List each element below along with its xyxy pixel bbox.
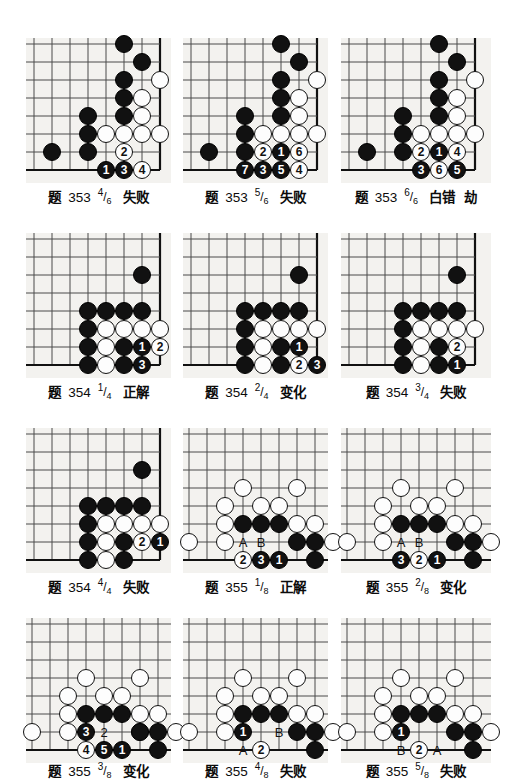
diagram-result: 失败 <box>440 385 466 400</box>
diagram-result: 变化 <box>440 580 466 595</box>
diagram-result: 失败 <box>123 580 149 595</box>
board-label-B: B <box>253 534 269 550</box>
diagram-result: 白错 <box>429 190 455 205</box>
problem-label: 题 <box>48 764 61 779</box>
board-label-B: B <box>393 742 409 758</box>
go-board: AB321 <box>341 428 491 573</box>
stone-white <box>482 723 501 742</box>
diagram-fraction: 2/4 <box>255 382 269 401</box>
problem-number: 354 <box>64 385 90 400</box>
diagram-caption: 题 3543/4失败 <box>327 381 505 402</box>
diagram-result: 失败 <box>280 764 306 779</box>
diagram-fraction: 4/6 <box>98 187 112 206</box>
problem-label: 题 <box>205 385 218 400</box>
diagram-caption: 题 3554/8失败 <box>169 760 342 780</box>
diagram-fraction: 4/4 <box>98 577 112 596</box>
diagram-caption: 题 3544/4失败 <box>12 576 185 597</box>
go-board: 214365 <box>341 38 491 183</box>
board-label-A: A <box>235 742 251 758</box>
problem-number: 355 <box>382 580 408 595</box>
problem-label: 题 <box>48 580 61 595</box>
diagram-fraction: 1/4 <box>98 382 112 401</box>
diagram-fraction: 4/8 <box>255 761 269 780</box>
go-board: AB231 <box>183 428 328 573</box>
diagram-result: 失败 <box>440 764 466 779</box>
diagram-caption: 题 3542/4变化 <box>169 381 342 402</box>
go-board: 2134 <box>26 38 171 183</box>
diagram-fraction: 2/8 <box>415 577 429 596</box>
diagram-result: 变化 <box>280 385 306 400</box>
go-board: 21 <box>26 428 171 573</box>
problem-label: 题 <box>366 385 379 400</box>
diagram-fraction: 5/8 <box>415 761 429 780</box>
go-board: 23451 <box>26 618 171 763</box>
go-board: 21 <box>341 233 491 378</box>
diagram-result: 正解 <box>123 385 149 400</box>
problem-label: 题 <box>48 385 61 400</box>
problem-number: 353 <box>64 190 90 205</box>
board-label-A: A <box>235 534 251 550</box>
diagram-fraction: 5/6 <box>255 187 269 206</box>
diagram-caption: 题 3534/6失败 <box>12 186 185 207</box>
problem-label: 题 <box>205 190 218 205</box>
go-board: BA12 <box>341 618 491 763</box>
diagram-fraction: 1/8 <box>255 577 269 596</box>
go-board: 2167354 <box>183 38 328 183</box>
go-board: 123 <box>183 233 328 378</box>
board-label-A: A <box>429 742 445 758</box>
problem-number: 355 <box>221 580 247 595</box>
go-problem-page: 2134题 3534/6失败2167354题 3535/6失败214365题 3… <box>0 0 508 780</box>
diagram-caption: 题 3552/8变化 <box>327 576 505 597</box>
diagram-caption: 题 3541/4正解 <box>12 381 185 402</box>
board-label-B: B <box>271 724 287 740</box>
problem-label: 题 <box>355 190 368 205</box>
stone-white <box>482 533 501 552</box>
problem-number: 355 <box>64 764 90 779</box>
go-board: 123 <box>26 233 171 378</box>
problem-number: 353 <box>221 190 247 205</box>
diagram-caption: 题 3536/6白错劫 <box>327 186 505 207</box>
problem-number: 355 <box>382 764 408 779</box>
problem-number: 355 <box>221 764 247 779</box>
diagram-result: 正解 <box>280 580 306 595</box>
problem-number: 354 <box>221 385 247 400</box>
board-label-B: B <box>411 534 427 550</box>
problem-label: 题 <box>366 580 379 595</box>
diagram-fraction: 3/8 <box>98 761 112 780</box>
diagram-result: 变化 <box>123 764 149 779</box>
problem-label: 题 <box>366 764 379 779</box>
diagram-caption: 题 3553/8变化 <box>12 760 185 780</box>
diagram-fraction: 3/4 <box>415 382 429 401</box>
problem-label: 题 <box>205 764 218 779</box>
problem-number: 353 <box>371 190 397 205</box>
diagram-result: 失败 <box>280 190 306 205</box>
board-label-A: A <box>393 534 409 550</box>
board-label-2: 2 <box>96 724 112 740</box>
problem-label: 题 <box>205 580 218 595</box>
diagram-caption: 题 3555/8失败 <box>327 760 505 780</box>
go-board: BA12 <box>183 618 328 763</box>
problem-number: 354 <box>382 385 408 400</box>
diagram-result-secondary: 劫 <box>464 190 477 205</box>
diagram-fraction: 6/6 <box>404 187 418 206</box>
problem-number: 354 <box>64 580 90 595</box>
diagram-caption: 题 3535/6失败 <box>169 186 342 207</box>
problem-label: 题 <box>48 190 61 205</box>
diagram-result: 失败 <box>123 190 149 205</box>
diagram-caption: 题 3551/8正解 <box>169 576 342 597</box>
